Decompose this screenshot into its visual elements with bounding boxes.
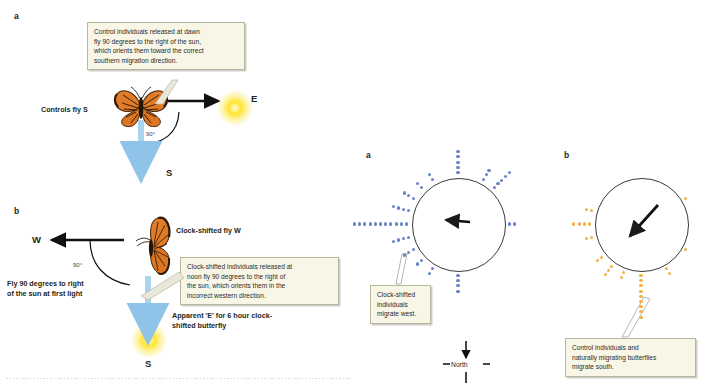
orientation-dot	[620, 276, 623, 279]
orientation-dot	[590, 209, 593, 212]
orientation-dot	[639, 274, 642, 277]
orientation-dot	[639, 279, 642, 282]
orientation-dot	[684, 197, 687, 200]
orientation-dot	[588, 222, 591, 225]
dot-cloud-b	[0, 0, 707, 392]
orientation-dot	[585, 237, 588, 240]
orientation-dot	[600, 256, 603, 259]
orientation-dot	[665, 267, 668, 270]
orientation-dot	[639, 300, 642, 303]
orientation-dot	[607, 269, 610, 272]
orientation-dot	[639, 305, 642, 308]
orientation-dot	[639, 290, 642, 293]
orientation-dot	[610, 265, 613, 268]
orientation-dot	[585, 208, 588, 211]
orientation-dot	[668, 272, 671, 275]
orientation-dot	[596, 259, 599, 262]
figure-root: a Control individuals released at dawn f…	[0, 0, 707, 392]
orientation-dot	[639, 316, 642, 319]
orientation-dot	[639, 295, 642, 298]
orientation-dot	[604, 273, 607, 276]
orientation-dot	[572, 222, 575, 225]
orientation-dot	[622, 271, 625, 274]
orientation-dot	[583, 222, 586, 225]
orientation-dot	[590, 236, 593, 239]
orientation-dot	[578, 222, 581, 225]
orientation-dot	[684, 248, 687, 251]
orientation-dot	[639, 310, 642, 313]
orientation-dot	[639, 284, 642, 287]
